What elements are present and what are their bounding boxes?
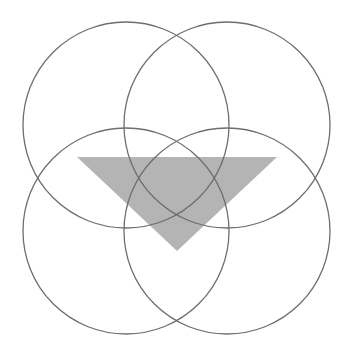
venn-diagram xyxy=(0,0,347,354)
shaded-triangle xyxy=(77,157,277,251)
